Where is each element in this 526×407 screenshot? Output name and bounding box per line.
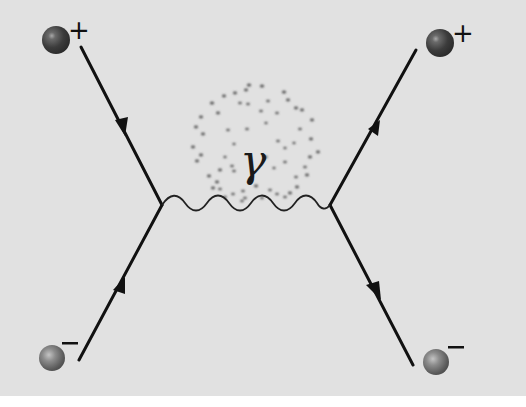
particle-top-right: + <box>426 18 474 57</box>
particle-bottom-left <box>39 342 78 371</box>
photon-symbol: γ <box>240 135 267 186</box>
charge-label-minus <box>448 346 464 349</box>
electron-sphere-icon <box>423 349 449 375</box>
positron-sphere-icon <box>42 26 70 54</box>
feynman-diagram: γ + + <box>0 0 526 407</box>
particle-bottom-right <box>423 346 464 375</box>
positron-sphere-icon <box>426 29 454 57</box>
charge-label-plus: + <box>452 18 474 48</box>
arrow-down-icon <box>366 281 381 300</box>
charge-label-minus <box>62 342 78 345</box>
charge-label-plus: + <box>68 15 90 45</box>
electron-sphere-icon <box>39 345 65 371</box>
